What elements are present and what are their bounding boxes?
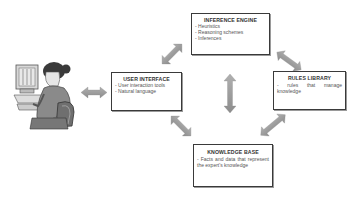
user-interface-item: - Natural language — [112, 88, 181, 94]
arrow-inference-knowledge — [224, 74, 236, 113]
inference-engine-item: - Inferences — [192, 35, 269, 41]
rules-library-box: RULES LIBRARY - rules that manage knowle… — [273, 71, 346, 110]
user-interface-box: USER INTERFACE - User interaction tools … — [111, 72, 182, 111]
arrow-rules-knowledge — [257, 110, 289, 140]
rules-library-description: - rules that manage knowledge — [274, 82, 345, 94]
knowledge-base-box: KNOWLEDGE BASE - Facts and data that rep… — [193, 144, 273, 187]
expert-system-diagram: INFERENCE ENGINE - Heuristics - Reasonin… — [0, 0, 362, 198]
inference-engine-box: INFERENCE ENGINE - Heuristics - Reasonin… — [191, 13, 270, 55]
user-at-computer-icon — [14, 62, 74, 129]
knowledge-base-title: KNOWLEDGE BASE — [194, 149, 272, 155]
arrow-user-ui — [81, 87, 107, 98]
arrow-ui-inference — [158, 40, 186, 68]
rules-library-title: RULES LIBRARY — [274, 75, 345, 81]
knowledge-base-description: - Facts and data that represent the expe… — [194, 156, 272, 168]
arrow-ui-knowledge — [167, 112, 195, 140]
